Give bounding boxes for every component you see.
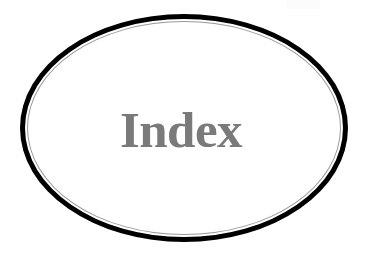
scan-artifact <box>286 0 320 9</box>
page-canvas: Index <box>0 0 369 253</box>
ellipse-inner-ring <box>27 21 341 235</box>
